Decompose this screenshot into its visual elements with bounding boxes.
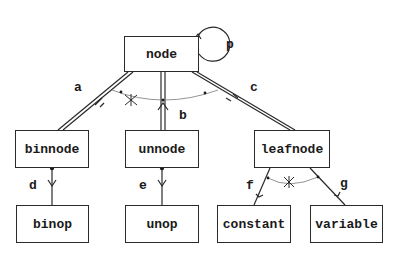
edge-label-e: e: [139, 178, 147, 193]
edge-label-f: f: [246, 178, 254, 193]
node-box-unop: unop: [125, 205, 199, 243]
node-box-unnode: unnode: [125, 130, 199, 168]
node-box-node: node: [124, 36, 199, 72]
node-box-constant: constant: [217, 205, 291, 243]
node-box-leafnode: leafnode: [254, 130, 330, 168]
edge-label-c: c: [250, 80, 258, 95]
node-box-binnode: binnode: [15, 130, 89, 168]
edge-label-b: b: [179, 108, 187, 123]
node-box-binop: binop: [16, 205, 89, 243]
edge-label-a: a: [74, 80, 82, 95]
edge-label-g: g: [340, 176, 348, 191]
edge-label-p: p: [226, 37, 234, 52]
node-box-variable: variable: [310, 205, 383, 243]
edge-label-d: d: [29, 178, 37, 193]
